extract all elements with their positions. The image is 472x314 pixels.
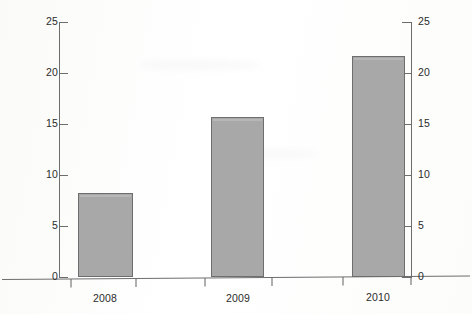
- x-axis-label: 2009: [203, 292, 273, 304]
- bar-2009: [211, 117, 264, 277]
- y-tick-right: [402, 22, 411, 23]
- y-axis-label-right: 0: [418, 271, 458, 282]
- bar-2008: [78, 193, 133, 277]
- x-axis-label: 2008: [70, 292, 140, 304]
- y-axis-label-left: 5: [18, 220, 58, 231]
- y-axis-label-right: 20: [418, 67, 458, 78]
- y-axis-left-spine: [59, 22, 60, 278]
- y-axis-label-left: 20: [18, 67, 58, 78]
- y-axis-label-right: 5: [418, 220, 458, 231]
- bar-2010: [352, 56, 405, 277]
- y-tick-left: [59, 73, 68, 74]
- y-axis-label-right: 15: [418, 118, 458, 129]
- y-axis-label-left: 10: [18, 169, 58, 180]
- plot-area: 25 20 15 10 5 0 25 20 15 10 5 0 2008 200…: [0, 0, 472, 314]
- y-axis-label-right: 10: [418, 169, 458, 180]
- y-axis-label-left: 15: [18, 118, 58, 129]
- y-axis-right-spine: [411, 22, 412, 278]
- y-tick-left: [59, 124, 68, 125]
- chart-figure: 25 20 15 10 5 0 25 20 15 10 5 0 2008 200…: [0, 0, 472, 314]
- x-axis-label: 2010: [343, 291, 413, 303]
- y-tick-right: [402, 277, 411, 278]
- y-tick-left: [59, 277, 68, 278]
- y-axis-label-right: 25: [418, 16, 458, 27]
- y-axis-label-left: 25: [18, 16, 58, 27]
- y-tick-left: [59, 175, 68, 176]
- y-axis-label-left: 0: [18, 271, 58, 282]
- y-tick-left: [59, 226, 68, 227]
- y-tick-left: [59, 22, 68, 23]
